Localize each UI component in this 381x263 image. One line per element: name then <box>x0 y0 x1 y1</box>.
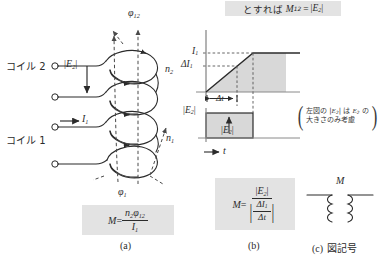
chart-current-vs-time <box>196 30 300 106</box>
formula-b-inner-num: ΔI1 <box>253 200 270 212</box>
ytick-I1: I1 <box>192 47 198 57</box>
emf-label-sub: 2 <box>72 63 75 70</box>
chart-emf-vs-time <box>198 106 300 152</box>
formula-a-lhs: M <box>108 215 116 226</box>
side-note-line2: 大きさのみ考慮 <box>306 116 369 125</box>
symbol-winding-right <box>348 195 353 222</box>
header-equals: = <box>303 4 308 14</box>
emf-block-sub: 2 <box>229 129 232 135</box>
formula-b-fraction: |E2| | ΔI1 Δt | <box>246 186 277 222</box>
figure-linework <box>0 0 381 263</box>
header-value-sub: 2 <box>318 8 321 14</box>
caption-c-text: 図記号 <box>327 243 357 254</box>
caption-c-tag: (c) <box>312 243 323 254</box>
abs-bar-left: | <box>250 203 253 219</box>
panel-c-transformer-symbol <box>307 195 373 226</box>
flux12-sub: 12 <box>134 12 140 19</box>
coil2-label: コイル 2 <box>6 62 46 72</box>
header-note-box: とすればM12=|E2| <box>225 1 341 16</box>
abs-bar-right: | <box>271 203 274 219</box>
formula-b-inner-den: Δt <box>255 212 269 222</box>
flux-line-bottom-left <box>93 176 104 180</box>
coil1-turn1 <box>106 111 157 145</box>
header-symbol-sub: 12 <box>294 6 301 12</box>
coil2-turn2 <box>106 81 157 115</box>
delta-t-label: Δt <box>216 94 224 103</box>
formula-b-denominator: | ΔI1 Δt | <box>246 199 277 222</box>
ytick-emf: |E2| <box>183 106 196 116</box>
side-note-line1: 左図の |E2| は E2 の <box>306 107 369 116</box>
coil2-direction-arrow-2 <box>124 84 129 85</box>
current-label-sub: 1 <box>85 118 88 125</box>
terminal-coil1-top <box>52 124 58 130</box>
emf-label-panel-a: |E2| <box>64 59 77 70</box>
terminal-coil1-bottom <box>52 161 58 167</box>
formula-b-inner-num-sub: 1 <box>265 203 268 209</box>
coil1-link <box>156 135 158 152</box>
ytick-I1-sub: 1 <box>195 50 198 56</box>
caption-b: (b) <box>248 240 260 251</box>
header-symbol: M <box>286 4 294 14</box>
formula-a-fraction: n2φ12 I1 <box>122 208 148 233</box>
turns2-label: n2 <box>165 64 173 75</box>
ytick-delta-I1: ΔI1 <box>181 60 193 70</box>
formula-a-denominator: I1 <box>129 221 141 233</box>
formula-a-den-i-sub: 1 <box>135 225 138 232</box>
symbol-label-M: M <box>336 176 344 186</box>
symbol-winding-left <box>328 195 333 222</box>
coil1-turn1-front <box>110 131 138 144</box>
emf-block-label: |E2| <box>221 126 234 136</box>
formula-b-numerator: |E2| <box>252 186 271 199</box>
turns2-sub: 2 <box>170 68 173 75</box>
coil2-link <box>156 74 158 92</box>
coil2-direction-arrow <box>142 52 146 54</box>
formula-box-b: M= |E2| | ΔI1 Δt | <box>215 178 295 230</box>
formula-b-lhs: M <box>232 199 240 210</box>
formula-b-inner-num-base: ΔI <box>256 199 264 209</box>
paren-open: ( <box>298 105 304 127</box>
coil1-direction-arrow-2 <box>124 145 129 146</box>
coil1-label: コイル 1 <box>6 136 46 146</box>
coil1-direction-arrow <box>124 115 129 116</box>
figure-mutual-inductance: とすればM12=|E2| コイル 2 コイル 1 |E2| I1 n2 n1 φ… <box>0 0 381 263</box>
caption-a: (a) <box>120 240 131 251</box>
formula-box-a: M= n2φ12 I1 <box>82 205 174 235</box>
side-note: ( 左図の |E2| は E2 の 大きさのみ考慮 ) <box>296 103 380 129</box>
paren-close: ) <box>371 105 377 127</box>
coil1-turn2 <box>107 146 157 178</box>
header-value: |E2| <box>311 3 324 13</box>
terminal-coil2-bottom <box>52 94 58 100</box>
x-axis-label-t: t <box>223 146 226 156</box>
formula-a-num-phi-sub: 12 <box>139 211 145 218</box>
formula-b-num-sub: 2 <box>264 190 267 197</box>
header-prefix: とすれば <box>243 2 283 16</box>
flux12-label: φ12 <box>128 8 140 19</box>
coil1-turn2-front <box>110 164 138 177</box>
flux-line-bottom-right <box>150 176 163 184</box>
lead-coil1-bottom <box>59 160 108 164</box>
ytick-delta-I1-sub: 1 <box>190 63 193 69</box>
terminal-coil2-top <box>52 63 58 69</box>
flux1-label: φ1 <box>118 187 127 198</box>
ytick-emf-sub: 2 <box>191 109 194 115</box>
turns1-label: n1 <box>166 133 174 144</box>
caption-c: (c)図記号 <box>312 240 357 255</box>
formula-b-inner-fraction: ΔI1 Δt <box>253 200 270 222</box>
coil2-turn1 <box>106 50 157 84</box>
lead-coil2-bottom <box>59 92 107 97</box>
current-label-panel-a: I1 <box>82 114 88 125</box>
ytick-delta-I1-base: ΔI <box>181 59 190 69</box>
formula-a-numerator: n2φ12 <box>122 208 148 221</box>
turns1-sub: 1 <box>171 137 174 144</box>
flux1-sub: 1 <box>124 191 127 198</box>
